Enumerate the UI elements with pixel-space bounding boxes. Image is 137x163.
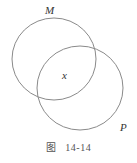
- set-p-circle: [37, 46, 123, 130]
- set-p-label: P: [120, 122, 127, 133]
- figure-caption: 图14-14: [0, 143, 137, 153]
- venn-diagram: [0, 0, 137, 163]
- caption-number: 14-14: [65, 142, 91, 153]
- set-m-circle: [12, 18, 96, 100]
- caption-prefix: 图: [46, 142, 57, 153]
- set-m-label: M: [45, 5, 54, 16]
- intersection-label: x: [62, 70, 67, 81]
